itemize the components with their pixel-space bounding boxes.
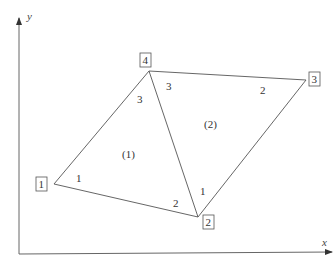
node-label-3: 3 [312, 73, 318, 85]
local-node-e2-3: 3 [166, 80, 172, 92]
edge-3-2 [198, 80, 306, 217]
node-label-2: 2 [206, 216, 212, 228]
element-label-2: (2) [204, 118, 217, 131]
local-node-e1-3: 3 [137, 93, 143, 105]
y-axis-label: y [26, 10, 32, 22]
local-node-e1-1: 1 [76, 172, 82, 184]
edge-4-2 [149, 71, 198, 217]
local-node-e2-1: 1 [200, 185, 206, 197]
node-label-1: 1 [39, 178, 45, 190]
finite-element-diagram: y x 1 2 3 4 (1) (2) 1 2 3 1 2 3 [0, 0, 336, 270]
edge-4-3 [149, 71, 306, 80]
element-labels: (1) (2) [122, 118, 217, 161]
local-node-e2-2: 2 [260, 84, 266, 96]
local-node-numbers: 1 2 3 1 2 3 [76, 80, 266, 209]
element-label-1: (1) [122, 148, 135, 161]
x-axis [19, 252, 332, 254]
mesh-edges [54, 71, 306, 217]
axes: y x [19, 10, 332, 254]
edge-1-4 [54, 71, 149, 184]
node-label-4: 4 [143, 54, 149, 66]
x-axis-label: x [321, 236, 327, 248]
local-node-e1-2: 2 [173, 197, 179, 209]
